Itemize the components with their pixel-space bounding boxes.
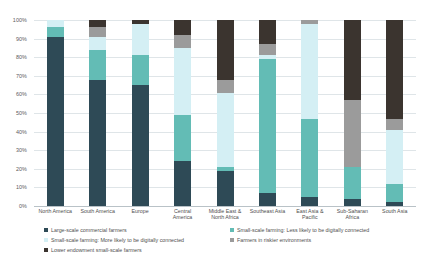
bar-group xyxy=(344,20,361,206)
x-axis-label: South Asia xyxy=(374,208,416,214)
legend-label: Lower endowment small-scale farmers xyxy=(51,247,142,254)
legend-color-swatch xyxy=(44,228,48,232)
bar-segment xyxy=(386,20,403,119)
bars-container xyxy=(34,20,416,206)
bar-segment xyxy=(386,130,403,184)
legend-color-swatch xyxy=(230,238,234,242)
bar-segment xyxy=(386,119,403,130)
bar-segment xyxy=(174,115,191,162)
x-axis-label: Europe xyxy=(119,208,161,214)
bar-segment xyxy=(386,202,403,206)
y-axis-tick-label: 50% xyxy=(16,110,27,116)
legend-color-swatch xyxy=(230,228,234,232)
bar-segment xyxy=(89,50,106,80)
legend-label: Farmers in riskier environments xyxy=(237,237,311,244)
bar-group xyxy=(259,20,276,206)
bar-segment xyxy=(47,27,64,36)
bar-segment xyxy=(174,48,191,115)
legend-item[interactable]: Lower endowment small-scale farmers xyxy=(44,247,142,254)
bar-segment xyxy=(89,27,106,36)
bar-segment xyxy=(386,184,403,203)
bar-segment xyxy=(301,24,318,119)
legend-color-swatch xyxy=(44,248,48,252)
x-axis-label: Sub-SaharanAfrica xyxy=(331,208,373,221)
bar-segment xyxy=(89,20,106,27)
stacked-bar-chart: 0%10%20%30%40%50%60%70%80%90%100% North … xyxy=(0,0,426,263)
x-axis-label: Southeast Asia xyxy=(246,208,288,214)
legend-item[interactable]: Farmers in riskier environments xyxy=(230,237,311,244)
x-axis-label: North America xyxy=(34,208,76,214)
bar-segment xyxy=(259,20,276,44)
x-axis-label: South America xyxy=(76,208,118,214)
y-axis-tick-label: 90% xyxy=(16,36,27,42)
y-axis-tick-label: 20% xyxy=(16,166,27,172)
y-axis-tick-label: 60% xyxy=(16,91,27,97)
bar-segment xyxy=(259,193,276,206)
bar-group xyxy=(174,20,191,206)
bar-segment xyxy=(174,20,191,35)
bar-segment xyxy=(217,171,234,206)
legend-label: Large-scale commercial farmers xyxy=(51,227,127,234)
axis-baseline xyxy=(34,206,416,207)
x-axis-label: East Asia &Pacific xyxy=(289,208,331,221)
y-axis: 0%10%20%30%40%50%60%70%80%90%100% xyxy=(0,20,32,206)
bar-segment xyxy=(344,20,361,100)
legend-item[interactable]: Small-scale farming: Less likely to be d… xyxy=(230,227,369,234)
bar-segment xyxy=(259,44,276,55)
bar-segment xyxy=(301,119,318,197)
bar-group xyxy=(47,20,64,206)
legend-item[interactable]: Small-scale farming: More likely to be d… xyxy=(44,237,184,244)
bar-segment xyxy=(217,93,234,167)
y-axis-tick-label: 100% xyxy=(13,17,27,23)
bar-segment xyxy=(47,37,64,206)
legend-label: Small-scale farming: More likely to be d… xyxy=(51,237,184,244)
bar-segment xyxy=(89,37,106,50)
bar-group xyxy=(301,20,318,206)
x-axis-label: CentralAmerica xyxy=(161,208,203,221)
y-axis-tick-label: 70% xyxy=(16,73,27,79)
bar-segment xyxy=(217,80,234,93)
bar-segment xyxy=(301,197,318,206)
bar-segment xyxy=(174,35,191,48)
bar-segment xyxy=(344,199,361,206)
legend-color-swatch xyxy=(44,238,48,242)
bar-group xyxy=(89,20,106,206)
y-axis-tick-label: 30% xyxy=(16,147,27,153)
y-axis-tick-label: 80% xyxy=(16,54,27,60)
bar-segment xyxy=(89,80,106,206)
x-axis-label: Middle East &North Africa xyxy=(204,208,246,221)
bar-segment xyxy=(47,20,64,27)
bar-group xyxy=(386,20,403,206)
y-axis-tick-label: 0% xyxy=(19,203,27,209)
bar-segment xyxy=(259,59,276,193)
bar-segment xyxy=(344,167,361,199)
legend-item[interactable]: Large-scale commercial farmers xyxy=(44,227,127,234)
bar-segment xyxy=(132,85,149,206)
y-axis-tick-label: 40% xyxy=(16,129,27,135)
bar-group xyxy=(217,20,234,206)
legend-label: Small-scale farming: Less likely to be d… xyxy=(237,227,369,234)
plot-area xyxy=(34,20,416,206)
bar-segment xyxy=(217,20,234,80)
bar-segment xyxy=(344,100,361,167)
bar-group xyxy=(132,20,149,206)
chart-legend: Large-scale commercial farmersSmall-scal… xyxy=(44,227,416,259)
bar-segment xyxy=(174,161,191,206)
y-axis-tick-label: 10% xyxy=(16,184,27,190)
bar-segment xyxy=(132,55,149,85)
bar-segment xyxy=(132,24,149,56)
